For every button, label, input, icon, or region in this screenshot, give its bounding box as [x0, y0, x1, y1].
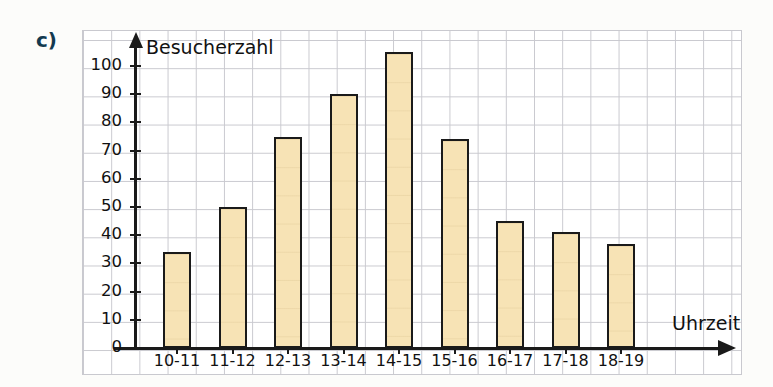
bar-texture [332, 96, 356, 346]
y-tick-label: 70 [78, 142, 122, 158]
x-category-label: 18-19 [591, 352, 651, 370]
x-axis-arrow-icon [718, 340, 736, 356]
y-tick-label-text: 20 [78, 283, 122, 300]
y-tick-mark [130, 178, 141, 180]
y-tick-mark [130, 93, 141, 95]
y-tick-label: 100 [78, 57, 122, 73]
bar [552, 232, 580, 348]
y-axis-line [134, 44, 137, 349]
y-tick-label-text: 0 [78, 339, 122, 356]
bar-texture [443, 141, 467, 346]
x-category-label: 10-11 [147, 352, 207, 370]
y-tick-label: 60 [78, 170, 122, 186]
y-tick-label-text: 70 [78, 142, 122, 159]
worksheet-page: c) Besucherzahl Uhrzeit 0102030405060708… [0, 0, 773, 387]
y-tick-label-text: 90 [78, 85, 122, 102]
bar [441, 139, 469, 348]
y-tick-label: 0 [78, 339, 122, 355]
y-axis-arrow-icon [129, 32, 143, 48]
bar [274, 137, 302, 349]
y-tick-label: 50 [78, 198, 122, 214]
x-category-label: 11-12 [203, 352, 263, 370]
x-category-label: 15-16 [425, 352, 485, 370]
y-tick-label-text: 60 [78, 170, 122, 187]
y-tick-mark [130, 234, 141, 236]
y-tick-mark [130, 150, 141, 152]
y-tick-mark [130, 262, 141, 264]
x-category-label: 16-17 [480, 352, 540, 370]
bar-texture [221, 209, 245, 346]
bar [607, 244, 635, 348]
bar [163, 252, 191, 348]
bar [496, 221, 524, 348]
bar [330, 94, 358, 348]
y-tick-label-text: 100 [78, 57, 122, 74]
bar-texture [554, 234, 578, 346]
y-tick-label: 80 [78, 113, 122, 129]
y-tick-label-text: 10 [78, 311, 122, 328]
bar-texture [276, 139, 300, 347]
y-tick-label: 40 [78, 226, 122, 242]
x-category-label: 13-14 [314, 352, 374, 370]
y-tick-mark [130, 319, 141, 321]
y-tick-label: 30 [78, 254, 122, 270]
y-tick-mark [130, 291, 141, 293]
bar-chart: Besucherzahl Uhrzeit 0102030405060708090… [0, 0, 773, 387]
bar [385, 52, 413, 348]
y-tick-label: 90 [78, 85, 122, 101]
bar-texture [387, 54, 411, 346]
bar-texture [609, 246, 633, 346]
y-axis-title: Besucherzahl [146, 36, 274, 58]
x-category-label: 12-13 [258, 352, 318, 370]
x-category-label: 17-18 [536, 352, 596, 370]
y-tick-label-text: 50 [78, 198, 122, 215]
y-tick-mark [130, 121, 141, 123]
bar-texture [498, 223, 522, 346]
bar [219, 207, 247, 348]
x-axis-title: Uhrzeit [672, 312, 740, 334]
y-tick-mark [130, 65, 141, 67]
y-tick-mark [130, 206, 141, 208]
y-tick-label-text: 80 [78, 113, 122, 130]
y-tick-label-text: 30 [78, 254, 122, 271]
x-category-label: 14-15 [369, 352, 429, 370]
y-tick-label-text: 40 [78, 226, 122, 243]
y-tick-label: 20 [78, 283, 122, 299]
y-tick-mark [130, 347, 141, 349]
bar-texture [165, 254, 189, 346]
y-tick-label: 10 [78, 311, 122, 327]
